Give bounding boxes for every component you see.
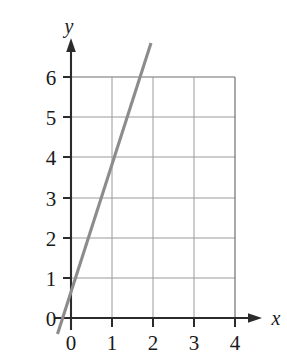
graph-figure: 0 1 2 3 4 5 6 0 1 2 3 4 y x — [0, 0, 287, 356]
y-tick-label-1: 1 — [46, 267, 57, 291]
y-tick-label-4: 4 — [46, 146, 57, 170]
coordinate-plane-chart: 0 1 2 3 4 5 6 0 1 2 3 4 y x — [0, 0, 287, 356]
x-tick-label-2: 2 — [148, 331, 159, 355]
y-tick-label-5: 5 — [46, 106, 57, 130]
y-axis-label: y — [63, 15, 74, 38]
x-tick-label-3: 3 — [189, 331, 200, 355]
x-tick-label-1: 1 — [107, 331, 118, 355]
x-axis-label: x — [271, 307, 281, 329]
y-tick-label-2: 2 — [46, 227, 57, 251]
y-tick-label-0: 0 — [46, 307, 57, 331]
x-tick-label-4: 4 — [230, 331, 241, 355]
y-tick-label-6: 6 — [46, 66, 57, 90]
y-tick-label-3: 3 — [46, 187, 57, 211]
x-tick-label-0: 0 — [66, 331, 77, 355]
chart-background — [0, 0, 287, 356]
